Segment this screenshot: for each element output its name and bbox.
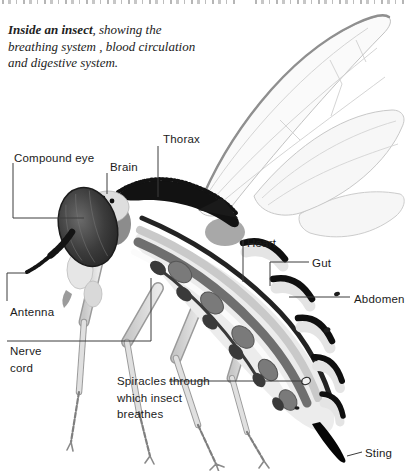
label-compound-eye: Compound eye [14, 150, 94, 167]
label-thorax: Thorax [163, 131, 200, 148]
leader-antenna [7, 273, 26, 301]
label-brain: Brain [110, 159, 138, 176]
label-abdomen: Abdomen [354, 291, 405, 308]
label-nerve-cord: Nerve cord [10, 343, 58, 376]
label-sting: Sting [365, 445, 392, 462]
leader-sting [347, 452, 362, 456]
label-gut: Gut [312, 255, 331, 272]
label-heart: Heart [247, 235, 276, 252]
label-spiracles: Spiracles through which insect breathes [117, 373, 215, 423]
diagram-page: Inside an insect, showing the breathing … [0, 0, 409, 471]
antenna-shape [27, 232, 72, 272]
label-antenna: Antenna [10, 304, 54, 321]
